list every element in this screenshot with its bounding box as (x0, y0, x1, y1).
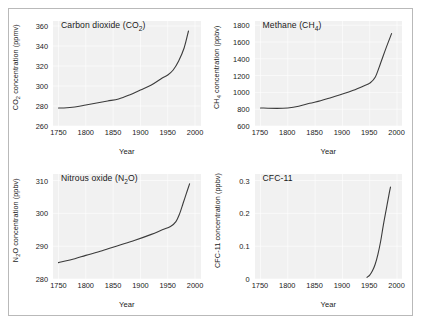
series-line-co2 (58, 31, 188, 108)
x-axis-label-cfc11: Year (255, 300, 403, 309)
x-tick-label: 1750 (252, 128, 268, 137)
panel-title-ch4: Methane (CH4) (263, 20, 322, 32)
x-tick-label: 1900 (132, 128, 148, 137)
plot-area-n2o (53, 174, 201, 279)
y-ticks-ch4: 60080010001200140016001800 (224, 21, 252, 126)
plot-area-co2 (53, 21, 201, 126)
x-ticks-ch4: 175018001850190019502000 (255, 128, 403, 140)
y-tick-label: 0.1 (239, 242, 249, 251)
series-line-n2o (58, 184, 189, 263)
x-tick-label: 1850 (105, 281, 121, 290)
x-ticks-n2o: 175018001850190019502000 (53, 281, 201, 293)
y-tick-label: 280 (36, 275, 48, 284)
y-tick-label: 290 (36, 242, 48, 251)
x-tick-label: 1800 (78, 281, 94, 290)
series-line-ch4 (260, 34, 391, 109)
y-tick-label: 1200 (233, 71, 249, 80)
x-tick-label: 1800 (279, 281, 295, 290)
x-tick-label: 1950 (159, 281, 175, 290)
x-axis-label-n2o: Year (53, 300, 201, 309)
y-tick-label: 280 (36, 102, 48, 111)
y-tick-label: 0.3 (239, 176, 249, 185)
x-tick-label: 1950 (361, 128, 377, 137)
y-axis-label-ch4: CH4 concentration (ppbv) (211, 9, 224, 126)
y-tick-label: 0 (245, 275, 249, 284)
x-tick-label: 1850 (105, 128, 121, 137)
x-ticks-co2: 175018001850190019502000 (53, 128, 201, 140)
y-tick-label: 0.2 (239, 209, 249, 218)
x-axis-label-co2: Year (53, 147, 201, 156)
panel-co2: CO2 concentration (ppmv) 260280300320340… (9, 9, 211, 162)
x-tick-label: 1900 (132, 281, 148, 290)
y-tick-label: 310 (36, 176, 48, 185)
panel-cfc11: CFC-11 concentration (ppbv) 00.10.20.3 C… (211, 162, 413, 315)
y-tick-label: 800 (237, 105, 249, 114)
series-line-cfc11 (366, 187, 389, 277)
x-tick-label: 1750 (50, 281, 66, 290)
y-tick-label: 360 (36, 22, 48, 31)
y-ticks-cfc11: 00.10.20.3 (224, 174, 252, 279)
x-axis-label-ch4: Year (255, 147, 403, 156)
plot-wrap-ch4 (255, 21, 403, 126)
y-tick-label: 1400 (233, 54, 249, 63)
y-tick-label: 1000 (233, 88, 249, 97)
panel-title-cfc11: CFC-11 (263, 173, 293, 183)
chart-grid: CO2 concentration (ppmv) 260280300320340… (9, 9, 412, 315)
x-ticks-cfc11: 175018001850190019502000 (255, 281, 403, 293)
y-tick-label: 1600 (233, 38, 249, 47)
y-axis-label-n2o: N2O concentration (ppbv) (9, 162, 22, 279)
y-axis-label-co2: CO2 concentration (ppmv) (9, 9, 22, 126)
y-tick-label: 1800 (233, 21, 249, 30)
y-tick-label: 600 (237, 122, 249, 131)
x-tick-label: 1750 (252, 281, 268, 290)
x-tick-label: 1950 (159, 128, 175, 137)
plot-wrap-n2o (53, 174, 201, 279)
x-tick-label: 1750 (50, 128, 66, 137)
y-ticks-n2o: 280290300310 (22, 174, 50, 279)
panel-title-co2: Carbon dioxide (CO2) (61, 20, 146, 32)
x-tick-label: 1900 (334, 281, 350, 290)
y-axis-label-cfc11: CFC-11 concentration (ppbv) (211, 162, 224, 279)
y-tick-label: 300 (36, 82, 48, 91)
y-tick-label: 320 (36, 62, 48, 71)
y-ticks-co2: 260280300320340360 (22, 21, 50, 126)
x-tick-label: 2000 (388, 281, 404, 290)
panel-ch4: CH4 concentration (ppbv) 600800100012001… (211, 9, 413, 162)
x-tick-label: 1900 (334, 128, 350, 137)
x-tick-label: 1800 (279, 128, 295, 137)
plot-area-ch4 (255, 21, 403, 126)
panel-title-n2o: Nitrous oxide (N2O) (61, 173, 138, 185)
panel-n2o: N2O concentration (ppbv) 280290300310 Ni… (9, 162, 211, 315)
y-tick-label: 260 (36, 122, 48, 131)
plot-area-cfc11 (255, 174, 403, 279)
x-tick-label: 1850 (306, 128, 322, 137)
x-tick-label: 1950 (361, 281, 377, 290)
x-tick-label: 1800 (78, 128, 94, 137)
plot-wrap-cfc11 (255, 174, 403, 279)
plot-wrap-co2 (53, 21, 201, 126)
y-tick-label: 300 (36, 209, 48, 218)
x-tick-label: 1850 (306, 281, 322, 290)
x-tick-label: 2000 (388, 128, 404, 137)
figure-frame: CO2 concentration (ppmv) 260280300320340… (8, 8, 413, 316)
x-tick-label: 2000 (187, 128, 203, 137)
y-tick-label: 340 (36, 42, 48, 51)
x-tick-label: 2000 (187, 281, 203, 290)
